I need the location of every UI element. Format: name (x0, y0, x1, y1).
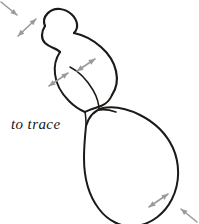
arrow-lower-lobe-head-start (149, 201, 156, 207)
arrow-bottom-right-corner (181, 209, 197, 222)
body-left-contour (55, 52, 85, 112)
body-upper-right (74, 33, 117, 95)
head-lobe (44, 9, 77, 33)
caption-to-trace: to trace (11, 117, 60, 132)
outline-group (42, 9, 178, 224)
arrow-annotation-group (1, 2, 197, 222)
inner-crease-upper (70, 67, 99, 110)
lower-lobe (84, 107, 178, 224)
arrow-lower-lobe (149, 194, 168, 207)
lower-lobe-shoulder (99, 110, 116, 112)
arrow-mid-left-head-start (49, 80, 56, 86)
arrow-mid-right (77, 59, 95, 71)
figure-canvas: to trace (0, 0, 199, 224)
outline-drawing (0, 0, 199, 224)
head-left-flank (42, 26, 60, 52)
arrow-lower-lobe-head-end (161, 194, 168, 200)
arrow-top-left-corner (1, 2, 17, 15)
arrow-mid-left-head-end (61, 73, 68, 79)
arrow-head-width (18, 19, 36, 36)
